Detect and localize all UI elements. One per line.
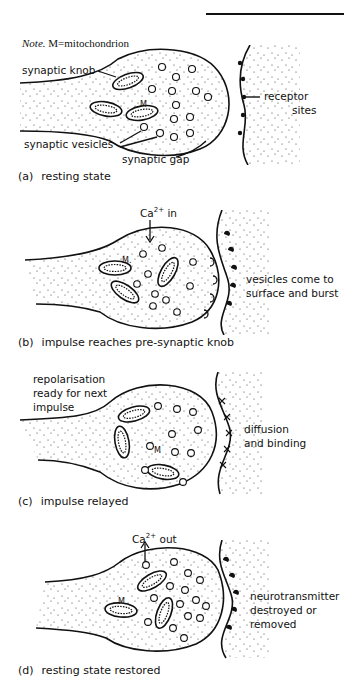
label-vesicles-burst-1: vesicles come to [246, 273, 334, 286]
ion-direction: in [167, 207, 177, 219]
ion-label-in: Ca2+ in [140, 204, 177, 220]
label-mito-marker: M [140, 98, 147, 111]
label-neurotransmitter-1: neurotransmitter [250, 590, 339, 603]
label-repolarisation-2: ready for next [33, 387, 107, 400]
label-synaptic-gap: synaptic gap [122, 153, 189, 166]
caption-a: (a)resting state [18, 170, 111, 183]
caption-tag: (c) [18, 495, 33, 508]
ion-base: Ca [132, 533, 146, 545]
label-mito-marker: M [154, 444, 161, 457]
caption-c: (c)impulse relayed [18, 495, 129, 508]
caption-d: (d)resting state restored [18, 664, 160, 677]
label-synaptic-vesicles: synaptic vesicles [24, 138, 113, 151]
label-receptor-sites-2: sites [292, 104, 316, 117]
label-repolarisation-3: impulse [33, 401, 74, 414]
ion-base: Ca [140, 207, 154, 219]
label-mito-marker: M [118, 595, 125, 608]
caption-tag: (d) [18, 664, 34, 677]
ion-charge: 2+ [154, 206, 164, 214]
label-mito-marker: M. [122, 254, 131, 267]
ion-direction: out [159, 533, 176, 545]
caption-text: resting state restored [42, 664, 161, 677]
label-diffusion-2: and binding [244, 437, 306, 450]
label-vesicles-burst-2: surface and burst [246, 287, 338, 300]
label-repolarisation-1: repolarisation [33, 373, 105, 386]
ion-charge: 2+ [146, 532, 156, 540]
caption-tag: (a) [18, 170, 33, 183]
ion-label-out: Ca2+ out [132, 530, 177, 546]
label-receptor-sites-1: receptor [264, 90, 308, 103]
caption-tag: (b) [18, 336, 34, 349]
caption-text: impulse relayed [41, 495, 129, 508]
caption-text: resting state [41, 170, 110, 183]
label-neurotransmitter-2: destroyed or [250, 604, 317, 617]
caption-text: impulse reaches pre-synaptic knob [42, 336, 234, 349]
label-diffusion-1: diffusion [244, 423, 289, 436]
caption-b: (b)impulse reaches pre-synaptic knob [18, 336, 234, 349]
label-neurotransmitter-3: removed [250, 618, 297, 631]
header-rule [206, 13, 344, 15]
label-synaptic-knob: synaptic knob [22, 64, 95, 77]
